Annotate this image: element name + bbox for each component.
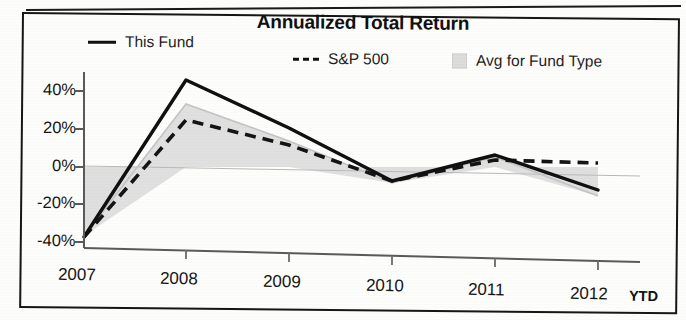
- chart-canvas: [0, 0, 686, 320]
- chart-plot-wrapper: Annualized Total Return This Fund S&P 50…: [0, 0, 686, 320]
- scanned-chart-page: Annualized Total Return This Fund S&P 50…: [0, 0, 686, 320]
- x-axis-spine: [84, 248, 640, 262]
